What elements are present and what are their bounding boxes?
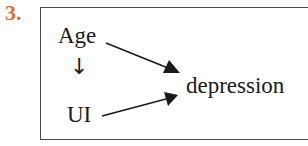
edges-layer bbox=[0, 0, 308, 146]
edge-age-to-depression bbox=[106, 43, 180, 73]
arrowhead-icon bbox=[164, 92, 178, 106]
edge-ui-to-depression bbox=[102, 92, 178, 116]
